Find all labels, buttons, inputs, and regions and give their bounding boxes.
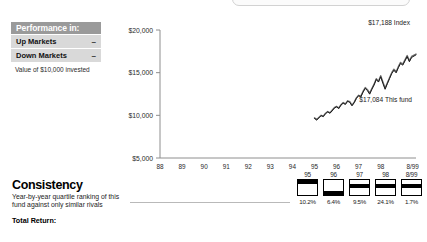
quartile-box: [375, 179, 396, 196]
performance-row-down-markets-value: –: [92, 49, 96, 63]
quartile-return-pct: 1.7%: [401, 198, 422, 205]
growth-chart: $20,000$15,000$10,000$5,0008889909192939…: [104, 18, 424, 173]
quartile-band: [376, 184, 395, 188]
quartile-year-label: 8/99: [401, 170, 422, 179]
x-axis-tick-label: 97: [355, 163, 363, 170]
quartile-year-label: 95: [297, 170, 318, 179]
quartile-year-label: 96: [323, 170, 344, 179]
performance-row-down-markets[interactable]: Down Markets –: [11, 49, 101, 63]
quartile-box: [349, 179, 370, 196]
quartile-box: [401, 179, 422, 196]
performance-panel-header: Performance in:: [11, 22, 101, 35]
consistency-section: Consistency Year-by-year quartile rankin…: [12, 178, 147, 225]
quartile-cell: 8/991.7%: [401, 170, 422, 205]
quartile-cell: 966.4%: [323, 170, 344, 205]
x-axis-tick-label: 8/99: [406, 163, 419, 170]
quartile-cell: 979.5%: [349, 170, 370, 205]
quartile-band: [324, 191, 343, 195]
y-axis-tick-label: $5,000: [132, 155, 153, 162]
quartile-box: [323, 179, 344, 196]
quartile-band: [298, 180, 317, 184]
x-axis-tick-label: 89: [179, 163, 187, 170]
quartile-band: [402, 184, 421, 188]
total-return-label: Total Return:: [12, 216, 147, 225]
performance-panel: Performance in: Up Markets – Down Market…: [11, 22, 101, 74]
y-axis-tick-label: $10,000: [128, 112, 153, 119]
quartile-box: [297, 179, 318, 196]
performance-panel-note: Value of $10,000 invested: [11, 63, 101, 74]
x-axis-tick-label: 92: [245, 163, 253, 170]
fund-value-annotation: $17,084 This fund: [359, 96, 412, 103]
x-axis-tick-label: 98: [377, 163, 385, 170]
consistency-title: Consistency: [12, 178, 147, 192]
quartile-band: [350, 184, 369, 188]
consistency-divider: [130, 202, 290, 203]
x-axis-tick-label: 95: [311, 163, 319, 170]
consistency-subtitle: Year-by-year quartile ranking of this fu…: [12, 193, 124, 210]
index-value-annotation: $17,188 Index: [368, 19, 411, 26]
quartile-year-label: 98: [375, 170, 396, 179]
y-axis-tick-label: $20,000: [128, 27, 153, 34]
performance-row-up-markets[interactable]: Up Markets –: [11, 35, 101, 49]
x-axis-tick-label: 91: [223, 163, 231, 170]
performance-row-up-markets-value: –: [92, 35, 96, 49]
quartile-year-label: 97: [349, 170, 370, 179]
quartile-ranking-row: 9510.2%966.4%979.5%9824.1%8/991.7%: [297, 170, 419, 205]
x-axis-tick-label: 94: [289, 163, 297, 170]
performance-row-down-markets-label: Down Markets: [16, 49, 67, 63]
quartile-return-pct: 10.2%: [297, 198, 318, 205]
quartile-return-pct: 9.5%: [349, 198, 370, 205]
x-axis-tick-label: 93: [267, 163, 275, 170]
top-tab-bar: [232, 0, 410, 6]
y-axis-tick-label: $15,000: [128, 69, 153, 76]
quartile-cell: 9824.1%: [375, 170, 396, 205]
quartile-return-pct: 6.4%: [323, 198, 344, 205]
x-axis-tick-label: 90: [201, 163, 209, 170]
quartile-cell: 9510.2%: [297, 170, 318, 205]
quartile-return-pct: 24.1%: [375, 198, 396, 205]
performance-row-up-markets-label: Up Markets: [16, 35, 56, 49]
x-axis-tick-label: 88: [156, 163, 164, 170]
x-axis-tick-label: 96: [333, 163, 341, 170]
growth-chart-svg: $20,000$15,000$10,000$5,0008889909192939…: [104, 18, 424, 173]
